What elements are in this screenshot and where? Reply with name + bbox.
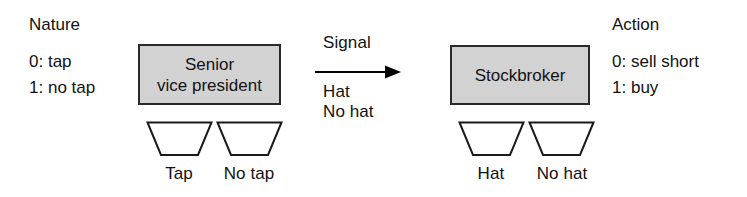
sender-name-line-2: vice president bbox=[157, 75, 262, 96]
sender-player-box: Senior vice president bbox=[138, 44, 281, 105]
action-choice-0: 0: sell short bbox=[612, 52, 699, 72]
receiver-information-set-hat bbox=[458, 121, 525, 157]
receiver-name-line-1: Stockbroker bbox=[475, 65, 566, 86]
action-legend: Action 0: sell short 1: buy bbox=[612, 15, 699, 98]
nature-type-1-label: no tap bbox=[48, 78, 95, 97]
receiver-information-set-no-hat bbox=[528, 121, 595, 157]
action-choice-1: 1: buy bbox=[612, 78, 699, 98]
trapezoid-shape-icon bbox=[146, 121, 213, 157]
action-choice-0-label: sell short bbox=[631, 52, 699, 71]
receiver-player-box: Stockbroker bbox=[450, 45, 590, 105]
sender-information-set-no-tap bbox=[216, 121, 283, 157]
trapezoid-shape-icon bbox=[458, 121, 525, 157]
action-choice-1-label: buy bbox=[631, 78, 658, 97]
signaling-game-diagram: Nature 0: tap 1: no tap Senior vice pres… bbox=[0, 0, 747, 197]
receiver-information-set-label-hat: Hat bbox=[478, 164, 505, 184]
receiver-information-set-label-no-hat: No hat bbox=[537, 164, 588, 184]
nature-legend: Nature 0: tap 1: no tap bbox=[29, 15, 95, 98]
nature-type-0-label: tap bbox=[48, 52, 72, 71]
signal-heading: Signal bbox=[323, 33, 371, 53]
trapezoid-shape-icon bbox=[216, 121, 283, 157]
trapezoid-shape-icon bbox=[528, 121, 595, 157]
action-choice-0-index: 0: bbox=[612, 52, 626, 71]
signal-arrow-icon bbox=[315, 64, 405, 80]
sender-name-line-1: Senior bbox=[185, 54, 234, 75]
nature-type-1: 1: no tap bbox=[29, 78, 95, 98]
sender-information-set-label-no-tap: No tap bbox=[224, 164, 275, 184]
sender-information-set-tap bbox=[146, 121, 213, 157]
nature-type-1-index: 1: bbox=[29, 78, 43, 97]
signal-option-no-hat: No hat bbox=[323, 102, 374, 122]
action-heading: Action bbox=[612, 15, 699, 35]
nature-heading: Nature bbox=[29, 15, 95, 35]
action-choice-1-index: 1: bbox=[612, 78, 626, 97]
nature-type-0-index: 0: bbox=[29, 52, 43, 71]
signal-option-hat: Hat bbox=[323, 82, 350, 102]
sender-information-set-label-tap: Tap bbox=[165, 164, 193, 184]
nature-type-0: 0: tap bbox=[29, 52, 95, 72]
